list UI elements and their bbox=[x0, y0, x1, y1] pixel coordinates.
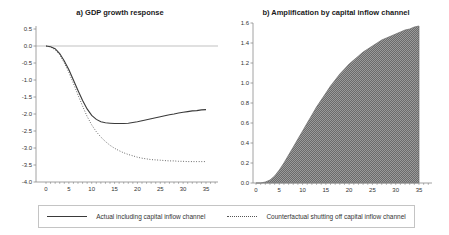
x-tick-label: 15 bbox=[323, 187, 330, 193]
gdp-growth-response-chart: 0.50.0-0.5-1.0-1.5-2.0-2.5-3.0-3.5-4.005… bbox=[0, 0, 225, 205]
y-tick-label: -2.5 bbox=[22, 128, 33, 134]
x-tick-label: 10 bbox=[88, 186, 95, 192]
x-tick-label: 5 bbox=[67, 186, 71, 192]
y-tick-label: 0.2 bbox=[241, 160, 250, 166]
y-tick-label: 0.8 bbox=[241, 100, 250, 106]
x-tick-label: 20 bbox=[346, 187, 353, 193]
amplification-chart: 1.61.41.21.00.80.60.40.20.00510152025303… bbox=[225, 0, 449, 205]
y-tick-label: -1.0 bbox=[22, 77, 33, 83]
legend-box: Actual including capital inflow channel … bbox=[38, 205, 415, 228]
y-tick-label: -0.5 bbox=[22, 60, 33, 66]
x-tick-label: 35 bbox=[203, 186, 210, 192]
y-tick-label: -3.0 bbox=[22, 145, 33, 151]
legend-label-counterfactual: Counterfactual shutting off capital infl… bbox=[266, 213, 405, 220]
panel-title: a) GDP growth response bbox=[76, 8, 163, 17]
y-axis-ticks: 0.50.0-0.5-1.0-1.5-2.0-2.5-3.0-3.5-4.0 bbox=[22, 26, 36, 185]
x-axis-ticks: 05101520253035 bbox=[254, 183, 428, 193]
y-tick-label: 0.0 bbox=[24, 43, 33, 49]
x-tick-label: 30 bbox=[180, 186, 187, 192]
legend-label-actual: Actual including capital inflow channel bbox=[96, 213, 205, 220]
panel-title: b) Amplification by capital inflow chann… bbox=[262, 8, 409, 17]
x-tick-label: 30 bbox=[392, 187, 399, 193]
x-tick-label: 10 bbox=[299, 187, 306, 193]
y-tick-label: -4.0 bbox=[22, 179, 33, 185]
x-tick-label: 20 bbox=[134, 186, 141, 192]
y-tick-label: -3.5 bbox=[22, 162, 33, 168]
y-tick-label: 0.6 bbox=[241, 120, 250, 126]
x-tick-label: 0 bbox=[254, 187, 258, 193]
x-tick-label: 35 bbox=[416, 187, 423, 193]
y-tick-label: 1.4 bbox=[241, 40, 250, 46]
x-tick-label: 15 bbox=[111, 186, 118, 192]
two-panel-figure: 0.50.0-0.5-1.0-1.5-2.0-2.5-3.0-3.5-4.005… bbox=[0, 0, 449, 235]
actual-line bbox=[46, 46, 206, 124]
y-tick-label: 1.6 bbox=[241, 20, 250, 26]
solid-line-swatch bbox=[47, 216, 87, 217]
legend-item-counterfactual: Counterfactual shutting off capital infl… bbox=[227, 213, 405, 220]
x-tick-label: 25 bbox=[369, 187, 376, 193]
y-axis-ticks: 1.61.41.21.00.80.60.40.20.0 bbox=[241, 20, 253, 186]
y-tick-label: 1.2 bbox=[241, 60, 250, 66]
y-tick-label: -1.5 bbox=[22, 94, 33, 100]
counterfactual-line bbox=[46, 46, 206, 162]
y-tick-label: 0.0 bbox=[241, 180, 250, 186]
y-tick-label: -2.0 bbox=[22, 111, 33, 117]
y-tick-label: 1.0 bbox=[241, 80, 250, 86]
axes bbox=[36, 26, 218, 182]
legend-item-actual: Actual including capital inflow channel bbox=[47, 213, 205, 220]
dotted-line-swatch bbox=[227, 216, 257, 217]
y-tick-label: 0.4 bbox=[241, 140, 250, 146]
x-tick-label: 5 bbox=[278, 187, 282, 193]
x-tick-label: 0 bbox=[44, 186, 48, 192]
x-tick-label: 25 bbox=[157, 186, 164, 192]
y-tick-label: 0.5 bbox=[24, 26, 33, 32]
x-axis-ticks: 05101520253035 bbox=[44, 182, 215, 192]
amplification-area bbox=[256, 26, 419, 183]
